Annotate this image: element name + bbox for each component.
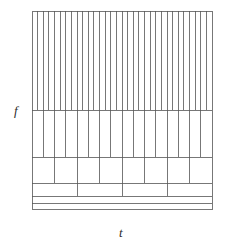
y-axis-label-frequency: f — [14, 104, 18, 117]
x-axis-label-time: t — [119, 226, 123, 239]
tiling-diagram-svg — [0, 0, 243, 246]
tiling-grid-lines — [32, 11, 212, 209]
